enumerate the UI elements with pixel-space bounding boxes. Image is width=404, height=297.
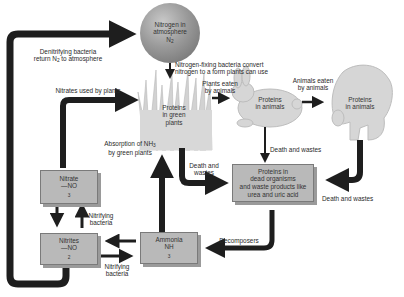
- nitrates-used-label: Nitrates used by plants: [52, 87, 124, 94]
- nitrites-box: Nitrites —NO2: [40, 233, 98, 265]
- nitrate-box: Nitrate —NO3: [40, 170, 98, 204]
- animals-eaten-label: Animals eaten by animals: [290, 77, 336, 92]
- nitrifying-up-label: Nitrifying bacteria: [84, 212, 118, 227]
- atmosphere-label-1: Nitrogen in: [155, 21, 186, 28]
- nitrifying-right-label: Nitrifying bacteria: [100, 263, 134, 278]
- plants-death-label: Death and wastes: [186, 162, 222, 177]
- atmosphere-formula: N2: [166, 36, 173, 45]
- atmosphere-label-2: atmosphere: [153, 28, 187, 35]
- dead-matter-box: Proteins in dead organisms and waste pro…: [232, 164, 314, 202]
- decomposers-label: Decomposers: [214, 237, 264, 244]
- plants-node-label: Proteins in green plants: [152, 104, 196, 126]
- nitrates-used-arrow: [63, 100, 128, 168]
- absorption-label: Absorption of NH3 by green plants: [102, 140, 158, 157]
- fixing-label: Nitrogen-fixing bacteria convert nitroge…: [175, 61, 268, 76]
- herbivore-node-label: Proteins in animals: [248, 96, 292, 111]
- carnivore-death-arrow: [336, 140, 360, 180]
- plants-eaten-label: Plants eaten by animals: [200, 80, 240, 95]
- carnivore-death-label: Death and wastes: [322, 195, 373, 202]
- carnivore-node-label: Proteins in animals: [338, 96, 382, 111]
- ammonia-box: Ammonia NH3: [140, 232, 198, 264]
- denitrifying-label: Denitrifying bacteria return N2 to atmos…: [28, 48, 108, 65]
- atmosphere-node: Nitrogen in atmosphere N2: [140, 3, 200, 63]
- herbivore-death-label: Death and wastes: [270, 146, 321, 153]
